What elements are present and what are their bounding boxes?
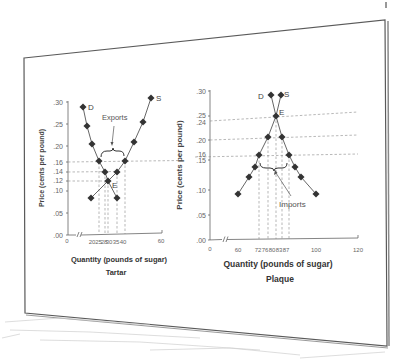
plaque-x-label: Quantity (pounds of sugar) bbox=[223, 259, 332, 269]
plaque-ytick: .20 bbox=[196, 137, 206, 144]
plaque-xtick: 120 bbox=[353, 247, 364, 253]
plaque-xtick: 60 bbox=[235, 247, 242, 253]
tartar-supply-label: S bbox=[156, 94, 161, 103]
tartar-xtick: 60 bbox=[158, 238, 165, 244]
plaque-supply-label: S bbox=[284, 90, 289, 99]
tartar-subtitle: Tartar bbox=[106, 268, 127, 277]
tartar-demand-label: D bbox=[88, 103, 94, 112]
plaque-xtick: 87 bbox=[283, 247, 290, 253]
plaque-ytick: .15 bbox=[196, 157, 206, 164]
plaque-ytick: .00 bbox=[196, 237, 206, 244]
plaque-ytick: .05 bbox=[196, 212, 206, 219]
tartar-exports-label: Exports bbox=[102, 113, 128, 122]
plaque-ytick: .30 bbox=[196, 88, 206, 95]
tartar-ytick: .30 bbox=[53, 99, 63, 106]
plaque-y-label: Price (cents per pound) bbox=[175, 120, 184, 210]
frame-shadow-right bbox=[388, 21, 389, 346]
plaque-ytick: .24 bbox=[196, 119, 206, 126]
figure-canvas: .30 .25 .20 .16 .14 .12 .10 .05 .00 Pric… bbox=[0, 0, 405, 363]
plaque-demand-label: D bbox=[258, 92, 264, 101]
tartar-ytick: .00 bbox=[53, 232, 63, 239]
paper-frame bbox=[24, 20, 387, 346]
tartar-ytick: .05 bbox=[53, 210, 63, 217]
plaque-imports-label: Imports bbox=[279, 200, 306, 209]
tartar-equilibrium-label: E bbox=[112, 181, 117, 190]
tartar-y-label: Price (cents per pound) bbox=[38, 129, 46, 207]
tartar-ytick: .25 bbox=[53, 121, 63, 128]
tartar-ytick: .12 bbox=[53, 177, 63, 184]
tartar-ytick: .14 bbox=[53, 168, 63, 175]
tartar-ytick: .20 bbox=[53, 143, 63, 150]
plaque-ytick: .10 bbox=[196, 187, 206, 194]
tartar-ytick: .16 bbox=[53, 159, 63, 166]
tartar-xtick: 40 bbox=[120, 239, 127, 245]
plaque-subtitle: Plaque bbox=[266, 274, 294, 284]
plaque-xtick: 100 bbox=[311, 247, 322, 253]
tartar-x-label: Quantity (pounds of sugar) bbox=[71, 255, 168, 264]
plaque-equilibrium-label: E bbox=[279, 108, 284, 117]
tartar-ytick: .10 bbox=[53, 187, 63, 194]
